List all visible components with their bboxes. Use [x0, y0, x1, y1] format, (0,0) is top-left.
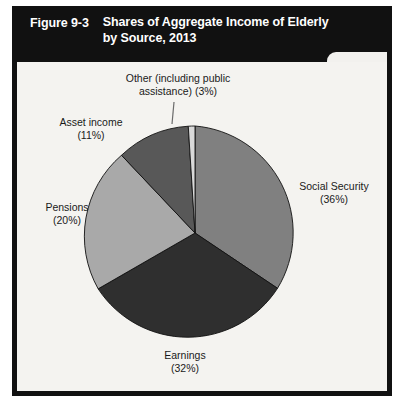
pie-label-pensions: Pensions (20%) — [19, 201, 115, 227]
figure-header: Figure 9-3 Shares of Aggregate Income of… — [30, 14, 332, 46]
figure-title: Shares of Aggregate Income of Elderly by… — [103, 14, 332, 46]
pie-label-social-security: Social Security (36%) — [279, 180, 387, 206]
figure-number: Figure 9-3 — [30, 14, 89, 31]
other-leader-line — [172, 102, 174, 124]
pie-label-asset-income: Asset income (11%) — [39, 116, 143, 142]
pie-label-other: Other (including public assistance) (3%) — [103, 72, 253, 98]
pie-label-earnings: Earnings (32%) — [125, 349, 245, 375]
figure-container: Figure 9-3 Shares of Aggregate Income of… — [12, 6, 392, 396]
chart-canvas: Other (including public assistance) (3%)… — [17, 62, 387, 391]
